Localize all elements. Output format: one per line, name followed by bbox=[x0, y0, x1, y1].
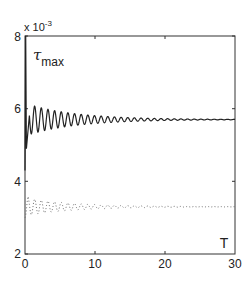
ytick-label-2: 2 bbox=[14, 247, 21, 261]
ytick-label-4: 4 bbox=[14, 175, 21, 189]
ytick-label-6: 6 bbox=[14, 102, 21, 116]
xtick-label-30: 30 bbox=[228, 257, 242, 271]
ytick-label-8: 8 bbox=[14, 30, 21, 44]
xtick-label-0: 0 bbox=[22, 257, 29, 271]
x-axis-label: T bbox=[220, 235, 229, 251]
xtick-label-20: 20 bbox=[158, 257, 172, 271]
x-ticks bbox=[95, 36, 165, 254]
y-axis-label: τmax bbox=[33, 46, 64, 69]
series-dotted-line bbox=[25, 197, 235, 218]
xtick-label-10: 10 bbox=[88, 257, 102, 271]
chart: 8 6 4 2 0 10 20 30 x 10-3 τmax T bbox=[0, 0, 252, 286]
y-multiplier: x 10-3 bbox=[24, 19, 52, 33]
